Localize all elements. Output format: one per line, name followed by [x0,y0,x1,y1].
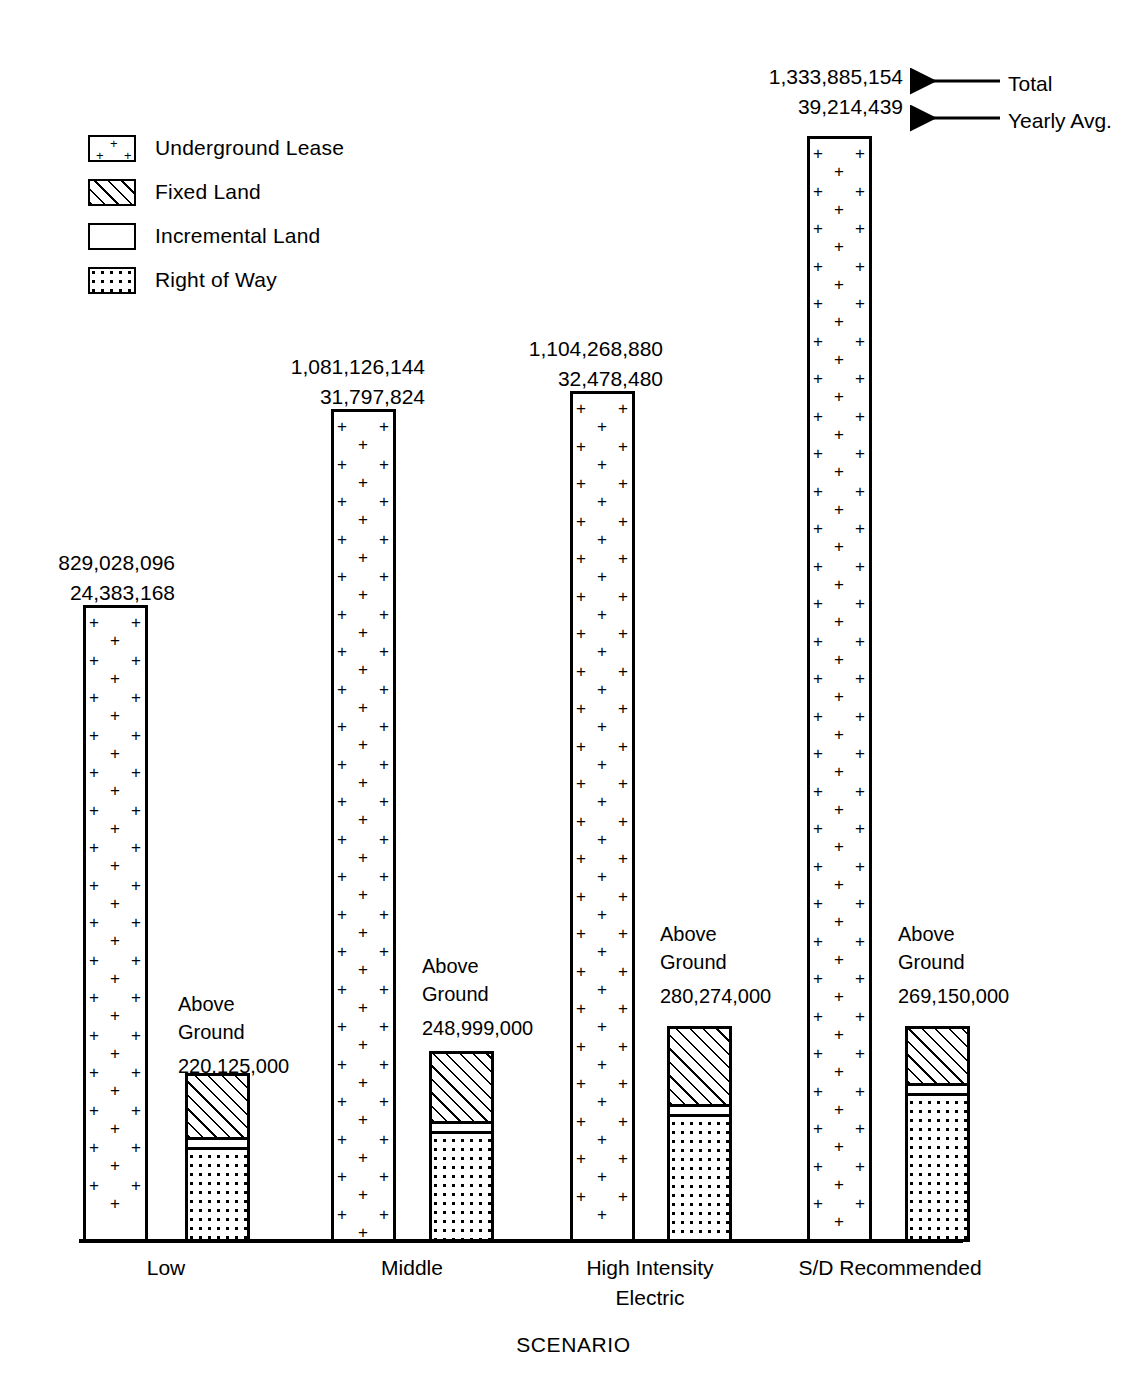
total-value-low: 829,028,096 [40,548,175,578]
above-ground-value-sd-recommended: 269,150,000 [898,982,1009,1010]
chart-figure: + + + Underground Lease Fixed Land Incre… [0,0,1147,1389]
bar-total-label-high-intensity-electric: 1,104,268,880 32,478,480 [500,334,663,394]
x-axis-title: SCENARIO [0,1333,1147,1357]
underground-lease-bar-middle: ++++++++++++++++++++++++++++++++++++++++… [331,409,396,1242]
segment-fixed-land-high-intensity-electric [670,1029,729,1107]
above-ground-bar-high-intensity-electric [667,1026,732,1242]
above-ground-bar-middle [429,1051,494,1242]
x-axis-line [79,1239,963,1243]
above-ground-label-low: Above Ground 220,125,000 [178,990,289,1080]
above-ground-caption-line2: Ground [898,948,1009,976]
underground-lease-bar-low: ++++++++++++++++++++++++++++++++++++++++… [83,605,148,1242]
above-ground-label-sd-recommended: Above Ground 269,150,000 [898,920,1009,1010]
above-ground-caption-line1: Above [178,990,289,1018]
underground-lease-bar-sd-recommended: ++++++++++++++++++++++++++++++++++++++++… [807,136,872,1242]
x-axis-tick-label-sd-recommended: S/D Recommended [790,1253,990,1283]
above-ground-caption-line1: Above [660,920,771,948]
x-axis-tick-label-high-intensity-electric: High Intensity Electric [560,1253,740,1313]
plot-area: Total Yearly Avg. 829,028,096 24,383,168… [0,0,1147,1389]
bar-total-label-sd-recommended: 1,333,885,154 39,214,439 [740,62,903,122]
x-axis-tick-label-middle: Middle [322,1253,502,1283]
segment-incremental-land-low [188,1140,247,1150]
segment-fixed-land-low [188,1076,247,1140]
yearly-avg-value-middle: 31,797,824 [262,382,425,412]
segment-right-of-way-low [188,1153,247,1239]
segment-incremental-land-high-intensity-electric [670,1107,729,1117]
total-value-high-intensity-electric: 1,104,268,880 [500,334,663,364]
segment-fixed-land-sd-recommended [908,1029,967,1086]
above-ground-bar-sd-recommended [905,1026,970,1242]
above-ground-caption-line2: Ground [178,1018,289,1046]
total-value-sd-recommended: 1,333,885,154 [740,62,903,92]
segment-right-of-way-sd-recommended [908,1099,967,1239]
annotation-yearly-avg-label: Yearly Avg. [1008,110,1112,131]
segment-incremental-land-middle [432,1124,491,1134]
above-ground-caption-line2: Ground [422,980,533,1008]
above-ground-value-high-intensity-electric: 280,274,000 [660,982,771,1010]
annotation-total-label: Total [1008,73,1052,94]
bar-total-label-middle: 1,081,126,144 31,797,824 [262,352,425,412]
above-ground-label-middle: Above Ground 248,999,000 [422,952,533,1042]
x-axis-tick-label-low: Low [76,1253,256,1283]
above-ground-bar-low [185,1073,250,1242]
bar-total-label-low: 829,028,096 24,383,168 [40,548,175,608]
annotation-arrows [900,62,1010,132]
above-ground-caption-line1: Above [898,920,1009,948]
segment-fixed-land-middle [432,1054,491,1124]
segment-right-of-way-high-intensity-electric [670,1120,729,1239]
segment-incremental-land-sd-recommended [908,1086,967,1096]
above-ground-caption-line2: Ground [660,948,771,976]
above-ground-caption-line1: Above [422,952,533,980]
yearly-avg-value-high-intensity-electric: 32,478,480 [500,364,663,394]
total-value-middle: 1,081,126,144 [262,352,425,382]
underground-lease-bar-high-intensity-electric: ++++++++++++++++++++++++++++++++++++++++… [570,391,635,1242]
above-ground-label-high-intensity-electric: Above Ground 280,274,000 [660,920,771,1010]
above-ground-value-middle: 248,999,000 [422,1014,533,1042]
yearly-avg-value-low: 24,383,168 [40,578,175,608]
yearly-avg-value-sd-recommended: 39,214,439 [740,92,903,122]
segment-right-of-way-middle [432,1137,491,1239]
